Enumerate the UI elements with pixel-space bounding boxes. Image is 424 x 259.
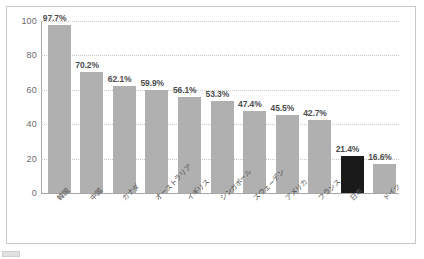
y-tick-label-0: 0 [11, 189, 37, 198]
bar-value-label: 97.7% [43, 14, 67, 23]
gridline-100 [41, 21, 399, 22]
y-axis-tick-labels: 020406080100 [7, 7, 37, 207]
bar [145, 90, 168, 193]
plot-area: 97.7%70.2%62.1%59.9%56.1%53.3%47.4%45.5%… [41, 21, 399, 193]
bar-value-label: 62.1% [108, 75, 132, 84]
y-tick-label-20: 20 [11, 155, 37, 164]
bar [80, 72, 103, 193]
caption-strip [0, 250, 424, 259]
y-tick-label-80: 80 [11, 51, 37, 60]
bar-value-label: 70.2% [75, 61, 99, 70]
bar [113, 86, 136, 193]
caption-swatch [2, 251, 20, 257]
bar-value-label: 42.7% [303, 109, 327, 118]
bar [308, 120, 331, 193]
bar-value-label: 21.4% [336, 145, 360, 154]
bar-value-label: 45.5% [271, 104, 295, 113]
y-tick-label-40: 40 [11, 120, 37, 129]
gridline-80 [41, 55, 399, 56]
bar [211, 101, 234, 193]
bar-value-label: 16.6% [368, 153, 392, 162]
bar-value-label: 59.9% [140, 79, 164, 88]
y-tick-label-60: 60 [11, 86, 37, 95]
bar-value-label: 56.1% [173, 86, 197, 95]
bar-value-label: 53.3% [206, 90, 230, 99]
chart-frame: 020406080100 97.7%70.2%62.1%59.9%56.1%53… [6, 6, 416, 244]
y-tick-label-100: 100 [11, 17, 37, 26]
bar-value-label: 47.4% [238, 100, 262, 109]
bar [48, 25, 71, 193]
